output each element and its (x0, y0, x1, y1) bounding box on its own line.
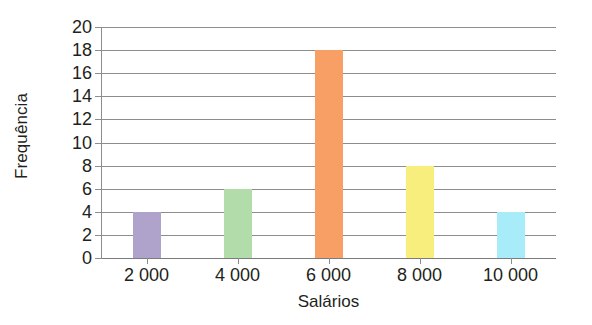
bar (224, 189, 252, 258)
y-axis-tick (95, 258, 102, 259)
y-axis-tick-label: 16 (58, 64, 92, 82)
y-axis-tick-label: 4 (58, 203, 92, 221)
y-axis-tick (95, 212, 102, 213)
y-axis-tick-label: 6 (58, 180, 92, 198)
bar-chart: Frequência 02468101214161820 2 0004 0006… (0, 0, 592, 325)
y-axis-title: Frequência (2, 0, 42, 272)
y-axis-tick-label: 20 (58, 18, 92, 36)
y-axis-tick-label: 12 (58, 110, 92, 128)
plot-area (101, 27, 556, 258)
y-axis-tick-label: 8 (58, 157, 92, 175)
y-axis-tick-label: 14 (58, 87, 92, 105)
gridline (101, 27, 556, 28)
y-axis-tick (95, 143, 102, 144)
bar (497, 212, 525, 258)
y-axis-tick (95, 166, 102, 167)
y-axis-tick (95, 189, 102, 190)
y-axis-title-text: Frequência (12, 93, 32, 179)
y-axis-tick (95, 96, 102, 97)
x-axis-title: Salários (101, 292, 556, 312)
y-axis-tick (95, 27, 102, 28)
y-axis-tick (95, 50, 102, 51)
bar (406, 166, 434, 258)
y-axis-tick (95, 235, 102, 236)
bar (315, 50, 343, 258)
y-axis-tick (95, 73, 102, 74)
y-axis-tick-label: 18 (58, 41, 92, 59)
y-axis-tick-label: 2 (58, 226, 92, 244)
bar (133, 212, 161, 258)
y-axis-tick (95, 119, 102, 120)
y-axis-tick-label: 10 (58, 134, 92, 152)
x-axis-tick-label: 10 000 (451, 264, 571, 286)
